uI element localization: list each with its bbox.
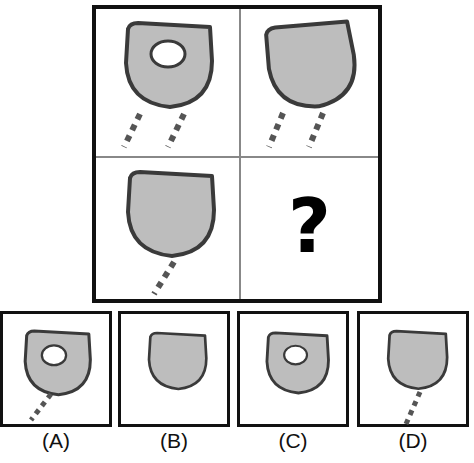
answer-option-a[interactable]: (A)	[0, 311, 112, 427]
option-b-box[interactable]	[118, 311, 230, 427]
matrix-cell-top-right[interactable]	[241, 9, 378, 156]
answer-option-c[interactable]: (C)	[237, 311, 349, 427]
option-d-box[interactable]	[357, 311, 469, 427]
option-c-box[interactable]	[237, 311, 349, 427]
cell-3-stage	[96, 158, 239, 299]
option-a-label: (A)	[0, 429, 112, 453]
option-c-label: (C)	[237, 429, 349, 453]
dashed-tails	[96, 9, 239, 156]
cell-2-stage	[241, 9, 378, 156]
dashed-tails	[3, 314, 115, 430]
option-a-box[interactable]	[0, 311, 112, 427]
matrix-cell-bottom-left[interactable]	[96, 158, 239, 299]
matrix-cell-bottom-right[interactable]: ?	[241, 158, 378, 299]
option-b-label: (B)	[118, 429, 230, 453]
answer-options: (A) (B) (C)	[0, 311, 474, 463]
dashed-tails	[96, 158, 239, 299]
answer-option-b[interactable]: (B)	[118, 311, 230, 427]
dashed-tails	[241, 9, 378, 156]
dashed-tails	[360, 314, 472, 430]
cell-1-stage	[96, 9, 239, 156]
option-d-label: (D)	[357, 429, 469, 453]
matrix-grid: ?	[92, 5, 382, 303]
question-mark-icon: ?	[241, 158, 378, 299]
answer-option-d[interactable]: (D)	[357, 311, 469, 427]
matrix-cell-top-left[interactable]	[96, 9, 239, 156]
half-moon-shape	[141, 330, 213, 394]
hole-icon	[284, 346, 307, 365]
half-moon-shape	[258, 330, 336, 398]
